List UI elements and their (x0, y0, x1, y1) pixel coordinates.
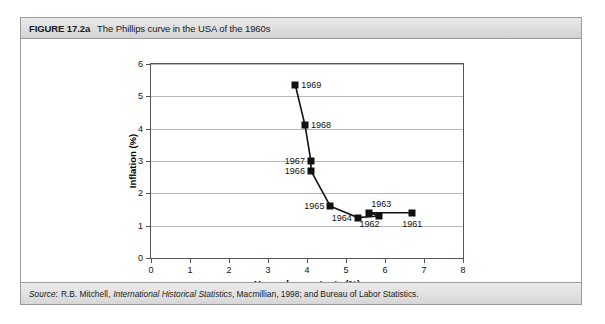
data-point-label-1963: 1963 (371, 199, 391, 209)
x-tick-2 (229, 258, 230, 263)
y-axis-label: Inflation (%) (127, 134, 138, 188)
source-text-italic: International Historical Statistics (113, 289, 232, 299)
data-marker-1961 (409, 209, 416, 216)
x-tick-label-2: 2 (226, 265, 231, 275)
data-marker-1966 (307, 167, 314, 174)
data-marker-1965 (327, 203, 334, 210)
y-tick-label-1: 1 (138, 221, 143, 231)
y-tick-label-4: 4 (138, 124, 143, 134)
data-marker-1967 (307, 158, 314, 165)
x-tick-label-4: 4 (304, 265, 309, 275)
source-word: Source (29, 289, 56, 299)
figure-source: Source:R.B. Mitchell,International Histo… (21, 282, 581, 304)
data-point-label-1966: 1966 (285, 166, 305, 176)
figure-card: FIGURE 17.2a The Phillips curve in the U… (20, 17, 582, 305)
x-tick-5 (346, 258, 347, 263)
x-tick-label-5: 5 (343, 265, 348, 275)
x-tick-3 (268, 258, 269, 263)
x-tick-0 (151, 258, 152, 263)
x-tick-8 (463, 258, 464, 263)
x-tick-label-7: 7 (421, 265, 426, 275)
x-tick-7 (424, 258, 425, 263)
data-point-label-1969: 1969 (301, 80, 321, 90)
x-tick-label-0: 0 (148, 265, 153, 275)
y-tick-label-3: 3 (138, 156, 143, 166)
data-marker-1968 (302, 122, 309, 129)
source-text-part1: R.B. Mitchell, (61, 289, 110, 299)
x-tick-label-6: 6 (382, 265, 387, 275)
data-point-label-1968: 1968 (311, 120, 331, 130)
x-tick-label-8: 8 (460, 265, 465, 275)
y-tick-label-5: 5 (138, 91, 143, 101)
figure-number: FIGURE 17.2a (29, 23, 90, 34)
x-tick-4 (307, 258, 308, 263)
data-marker-1962 (366, 209, 373, 216)
x-tick-label-1: 1 (187, 265, 192, 275)
x-tick-label-3: 3 (265, 265, 270, 275)
chart-plot-area: 0123456 012345678 1961196219631964196519… (150, 63, 464, 259)
figure-title: The Phillips curve in the USA of the 196… (97, 23, 270, 34)
figure-header: FIGURE 17.2a The Phillips curve in the U… (21, 18, 581, 39)
data-point-label-1962: 1962 (359, 219, 379, 229)
data-point-label-1964: 1964 (332, 213, 352, 223)
source-separator: : (56, 289, 58, 299)
y-tick-label-0: 0 (138, 253, 143, 263)
source-text-part2: , Macmillian, 1998; and Bureau of Labor … (232, 289, 419, 299)
data-point-label-1967: 1967 (285, 156, 305, 166)
data-marker-1969 (292, 82, 299, 89)
data-point-label-1961: 1961 (402, 219, 422, 229)
x-tick-1 (190, 258, 191, 263)
y-tick-label-6: 6 (138, 59, 143, 69)
x-tick-6 (385, 258, 386, 263)
data-point-label-1965: 1965 (304, 201, 324, 211)
y-tick-label-2: 2 (138, 188, 143, 198)
